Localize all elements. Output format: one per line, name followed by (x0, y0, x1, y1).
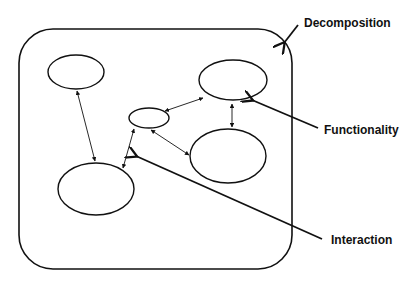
node-d (190, 129, 266, 183)
node-c (199, 60, 267, 100)
functionality-callout-arrow (252, 100, 318, 128)
decomposition-callout-arrow (284, 25, 298, 43)
edge-b-c (165, 98, 203, 111)
interaction-label: Interaction (331, 234, 392, 246)
edge-a-e (77, 91, 95, 161)
decomposition-label: Decomposition (304, 17, 391, 29)
functionality-label: Functionality (324, 124, 399, 136)
edge-b-e (123, 129, 134, 168)
interaction-callout-arrow (136, 156, 322, 239)
edge-b-d (151, 130, 189, 155)
node-a (48, 55, 104, 89)
node-b (129, 108, 169, 128)
system-boundary (19, 29, 292, 269)
node-e (58, 163, 134, 215)
